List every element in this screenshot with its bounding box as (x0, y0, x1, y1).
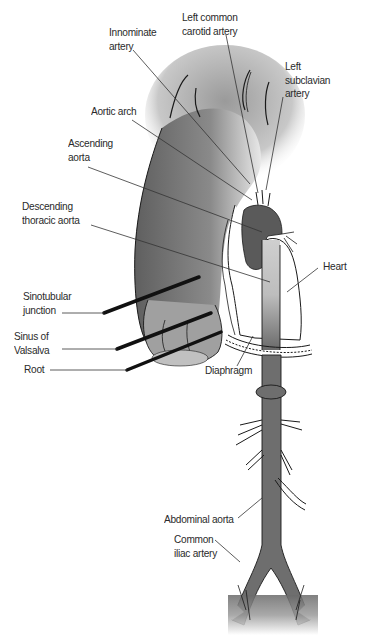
label-abdominal-aorta: Abdominal aorta (164, 513, 234, 527)
abdominal-aorta-shape (228, 355, 318, 635)
label-left-subclavian-artery: Left subclavian artery (285, 60, 330, 101)
label-left-common-carotid-artery: Left common carotid artery (182, 11, 238, 38)
label-innominate-artery: Innominate artery (109, 26, 156, 53)
label-ascending-aorta: Ascending aorta (68, 137, 113, 164)
label-descending-thoracic-aorta: Descending thoracic aorta (22, 200, 80, 227)
label-common-iliac-artery: Common iliac artery (174, 533, 217, 560)
label-heart: Heart (323, 260, 346, 274)
label-diaphragm: Diaphragm (205, 364, 252, 378)
descending-aorta-shape (262, 240, 280, 350)
label-root: Root (24, 363, 44, 377)
label-sinus-of-valsalva: Sinus of Valsalva (14, 330, 49, 357)
label-aortic-arch: Aortic arch (91, 105, 136, 119)
label-sinotubular-junction: Sinotubular junction (23, 290, 71, 317)
